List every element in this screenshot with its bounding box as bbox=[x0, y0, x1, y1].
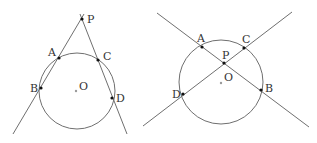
right-point-B bbox=[259, 88, 262, 91]
left-label-D: D bbox=[116, 92, 125, 105]
right-label-B: B bbox=[265, 82, 273, 95]
right-center-O bbox=[220, 82, 222, 84]
right-line-CD bbox=[143, 12, 292, 126]
right-label-O: O bbox=[224, 71, 233, 84]
left-center-O bbox=[75, 90, 77, 92]
right-figure: A C P D B O bbox=[143, 12, 309, 127]
right-label-C: C bbox=[242, 33, 250, 46]
right-label-A: A bbox=[196, 32, 206, 45]
left-point-C bbox=[96, 58, 99, 61]
right-point-C bbox=[242, 46, 245, 49]
left-label-O: O bbox=[79, 80, 88, 93]
left-label-C: C bbox=[103, 50, 111, 63]
geometry-figures: P A C B D O A C P D B O bbox=[0, 0, 317, 143]
left-point-D bbox=[110, 96, 113, 99]
right-label-P: P bbox=[222, 49, 230, 62]
right-point-A bbox=[200, 45, 203, 48]
left-label-A: A bbox=[47, 46, 57, 59]
left-point-P bbox=[80, 17, 83, 20]
right-label-D: D bbox=[172, 88, 181, 101]
left-label-B: B bbox=[30, 82, 38, 95]
right-point-D bbox=[181, 92, 184, 95]
right-line-AB bbox=[157, 13, 309, 127]
left-figure: P A C B D O bbox=[13, 13, 127, 134]
left-point-A bbox=[57, 56, 60, 59]
left-secant-PCD bbox=[80, 14, 127, 134]
left-label-P: P bbox=[87, 13, 95, 26]
left-point-B bbox=[39, 86, 42, 89]
